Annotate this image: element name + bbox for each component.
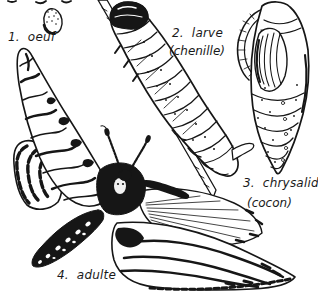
moth-abdomen [32,210,104,267]
stage-label-adulte: 4.adulte [57,269,116,281]
stage-sublabel-chenille: (chenille) [169,45,225,57]
stage-number: 3. [243,177,255,189]
stage-label-chrysalide: 3.chrysalide [243,177,318,189]
stage-label-larve: 2.larve [172,27,223,39]
stage-number: 4. [57,269,69,281]
stage-name: larve [192,27,223,39]
moth-life-cycle-figure: 1.oeuf 2.larve (chenille) 3.chrysalide (… [0,0,318,292]
stage-name: adulte [77,269,116,281]
stage-label-oeuf: 1.oeuf [8,31,55,43]
stage-number: 2. [172,27,184,39]
top-edge-fragments [8,1,71,3]
stage-sublabel-cocon: (cocon) [247,197,292,209]
stage-name: oeuf [28,31,55,43]
stage-number: 1. [8,31,20,43]
stage-name: chrysalide [263,177,318,189]
